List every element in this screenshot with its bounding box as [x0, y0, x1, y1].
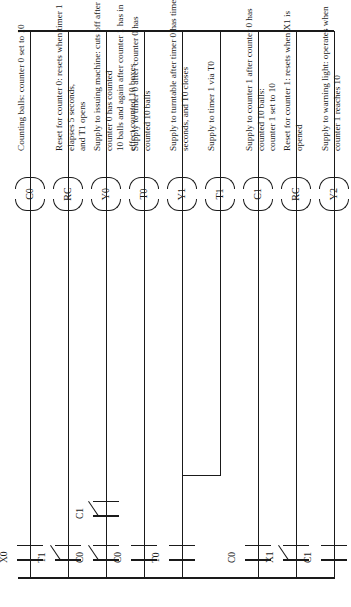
coil-label: RC — [53, 177, 83, 211]
coil-t1[interactable]: T1 — [205, 177, 235, 211]
contact-bar-right — [283, 545, 309, 547]
coil-label: Y2 — [319, 177, 349, 211]
coil-t0[interactable]: T0 — [129, 177, 159, 211]
contact-label: C1 — [76, 508, 86, 519]
contact-bar-right — [169, 545, 195, 547]
contact-slash — [88, 501, 99, 517]
contact-bar-right — [131, 545, 157, 547]
coil-label: RC — [281, 177, 311, 211]
contact-label: X1 — [266, 551, 276, 563]
contact-label: T0 — [152, 552, 162, 563]
coil-label: T1 — [205, 177, 235, 211]
contact-label: X0 — [0, 551, 10, 563]
contact-bar-right — [245, 545, 271, 547]
coil-c0[interactable]: C0 — [15, 177, 45, 211]
rung-wire — [30, 31, 31, 579]
contact-bar-right — [93, 545, 119, 547]
contact-bar-right — [17, 545, 43, 547]
coil-y0[interactable]: Y0 — [91, 177, 121, 211]
rung-2-description: Reset for counter 0: resets when timer 1… — [54, 0, 89, 151]
power-rail-left — [18, 577, 334, 579]
contact-label: C0 — [228, 552, 238, 563]
rung-wire — [220, 31, 221, 475]
coil-y1[interactable]: Y1 — [167, 177, 197, 211]
contact-slash — [278, 545, 289, 561]
contact-c1-rung3[interactable]: C1 — [93, 501, 119, 517]
coil-label: Y1 — [167, 177, 197, 211]
contact-label: T1 — [38, 552, 48, 563]
branch-link-vertical — [182, 475, 221, 476]
contact-label: C1 — [304, 552, 314, 563]
ladder-diagram-rotator: X0 C0 Counting balls: counter 0 set to 1… — [0, 0, 351, 607]
rung-6-description: Supply to timer 1 via T0 — [206, 1, 218, 151]
contact-t0-rung5[interactable]: T0 — [169, 545, 195, 561]
contact-bar-left — [169, 560, 195, 562]
rung-7-description: Supply to counter 1 after counter 0 has … — [244, 0, 279, 151]
coil-label: Y0 — [91, 177, 121, 211]
rung-1-description: Counting balls: counter 0 set to 10 — [16, 1, 28, 151]
contact-label: C0 — [76, 552, 86, 563]
contact-bar-left — [321, 560, 347, 562]
contact-slash — [88, 545, 99, 561]
coil-y2[interactable]: Y2 — [319, 177, 349, 211]
rung-4-description: Supply to timer 0 after counter 0 has co… — [130, 1, 153, 151]
coil-rc-2[interactable]: RC — [281, 177, 311, 211]
coil-c1[interactable]: C1 — [243, 177, 273, 211]
coil-rc-1[interactable]: RC — [53, 177, 83, 211]
contact-bar-right — [55, 545, 81, 547]
contact-bar-right — [321, 545, 347, 547]
coil-label: T0 — [129, 177, 159, 211]
contact-label: C0 — [114, 552, 124, 563]
ladder-diagram: X0 C0 Counting balls: counter 0 set to 1… — [0, 0, 351, 607]
rung-9-description: Supply to warning light: operates when c… — [320, 0, 343, 151]
contact-c1-rung9[interactable]: C1 — [321, 545, 347, 561]
coil-label: C1 — [243, 177, 273, 211]
contact-slash — [50, 545, 61, 561]
rung-8-description: Reset for counter 1: resets when X1 is o… — [282, 1, 305, 151]
coil-label: C0 — [15, 177, 45, 211]
contact-bar-right — [93, 501, 119, 503]
rung-5-description: Supply to turntable after timer 0 has ti… — [168, 0, 191, 151]
